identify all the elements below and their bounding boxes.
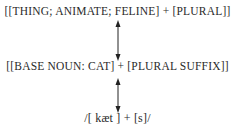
double-arrow-icon-bottom: [116, 78, 121, 113]
arrows: [0, 0, 235, 136]
double-arrow-icon-top: [116, 20, 121, 61]
